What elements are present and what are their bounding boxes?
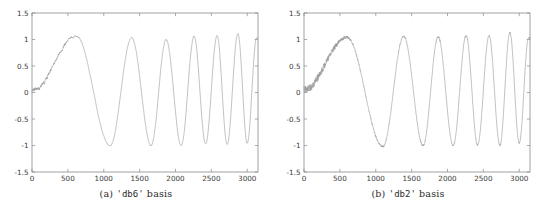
y-tick-label: 1.5	[17, 9, 28, 18]
chart-axes: 050010001500200025003000-1.5-1-0.500.511…	[286, 9, 530, 183]
y-tick-label: -1.5	[286, 168, 300, 177]
x-tick-label: 3000	[238, 174, 257, 183]
y-tick-label: -0.5	[14, 115, 28, 124]
y-tick-label: 0	[24, 88, 29, 97]
y-tick-label: 0.5	[289, 62, 300, 71]
chart-panel-b: 050010001500200025003000-1.5-1-0.500.511…	[272, 0, 544, 215]
figure-container: 050010001500200025003000-1.5-1-0.500.511…	[0, 0, 544, 215]
chart-plot-b: 050010001500200025003000-1.5-1-0.500.511…	[272, 0, 544, 215]
x-tick-label: 3000	[510, 174, 529, 183]
caption-a: (a) 'db6' basis	[0, 188, 272, 199]
y-tick-label: -1.5	[14, 168, 28, 177]
y-tick-label: -1	[21, 141, 28, 150]
data-line-1	[32, 33, 258, 145]
caption-a-basis: 'db6'	[117, 189, 144, 199]
y-tick-label: -1	[293, 141, 300, 150]
y-tick-label: 0	[296, 88, 301, 97]
x-tick-label: 2500	[474, 174, 493, 183]
y-tick-label: 1	[296, 35, 301, 44]
x-tick-label: 2000	[166, 174, 185, 183]
plot-frame	[32, 13, 258, 172]
data-line-1	[304, 32, 530, 147]
caption-b-basis: 'db2'	[389, 189, 416, 199]
y-tick-label: 1	[24, 35, 29, 44]
y-tick-label: 1.5	[289, 9, 300, 18]
caption-a-prefix: (a)	[100, 188, 114, 199]
caption-a-suffix: basis	[147, 188, 173, 199]
caption-b: (b) 'db2' basis	[272, 188, 544, 199]
x-tick-label: 1500	[130, 174, 149, 183]
x-tick-label: 0	[30, 174, 35, 183]
x-tick-label: 2500	[202, 174, 221, 183]
x-tick-label: 500	[61, 174, 75, 183]
y-tick-label: 0.5	[17, 62, 28, 71]
x-tick-label: 0	[302, 174, 307, 183]
x-tick-label: 1000	[95, 174, 114, 183]
chart-panel-a: 050010001500200025003000-1.5-1-0.500.511…	[0, 0, 272, 215]
caption-b-prefix: (b)	[371, 188, 385, 199]
plot-frame	[304, 13, 530, 172]
caption-b-suffix: basis	[419, 188, 445, 199]
x-tick-label: 2000	[438, 174, 457, 183]
chart-axes: 050010001500200025003000-1.5-1-0.500.511…	[14, 9, 258, 183]
chart-series-group	[304, 32, 530, 147]
chart-plot-a: 050010001500200025003000-1.5-1-0.500.511…	[0, 0, 272, 215]
x-tick-label: 500	[333, 174, 347, 183]
x-tick-label: 1000	[367, 174, 386, 183]
y-tick-label: -0.5	[286, 115, 300, 124]
chart-series-group	[32, 33, 258, 145]
x-tick-label: 1500	[402, 174, 421, 183]
